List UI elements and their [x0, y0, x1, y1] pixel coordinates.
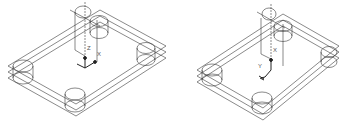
- z-axis-label: Z: [87, 45, 91, 51]
- left-view: Z X: [0, 0, 171, 125]
- plate-wireframe: X Y: [171, 0, 342, 125]
- plate-wireframe: Z X: [0, 0, 171, 125]
- pin: [70, 2, 100, 62]
- y-axis-label: Y: [258, 63, 262, 69]
- ucs-gizmo: [77, 57, 96, 68]
- pin: [257, 4, 285, 66]
- x-axis-label: X: [97, 51, 101, 57]
- ucs-gizmo: [259, 59, 272, 80]
- right-view: X Y: [171, 0, 342, 125]
- x-axis-label: X: [273, 47, 277, 53]
- hole-right: [137, 43, 155, 66]
